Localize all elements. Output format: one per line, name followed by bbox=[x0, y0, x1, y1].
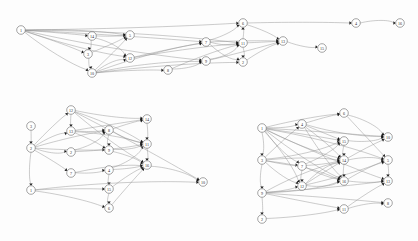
node-circle[interactable] bbox=[298, 120, 307, 129]
graph-node[interactable]: 10 bbox=[384, 133, 393, 142]
graph-node[interactable]: 1 bbox=[17, 26, 26, 35]
node-circle[interactable] bbox=[88, 32, 97, 41]
node-circle[interactable] bbox=[298, 162, 307, 171]
graph-node[interactable]: 3 bbox=[27, 122, 36, 131]
node-circle[interactable] bbox=[384, 156, 393, 165]
node-circle[interactable] bbox=[258, 189, 267, 198]
node-circle[interactable] bbox=[27, 144, 36, 153]
graph-node[interactable]: 11 bbox=[143, 140, 152, 149]
graph-node[interactable]: 16 bbox=[340, 177, 349, 186]
node-circle[interactable] bbox=[239, 58, 248, 67]
node-circle[interactable] bbox=[17, 26, 26, 35]
graph-node[interactable]: 10 bbox=[199, 178, 208, 187]
graph-node[interactable]: 2 bbox=[27, 144, 36, 153]
graph-node[interactable]: 3 bbox=[84, 50, 93, 59]
graph-node[interactable]: 10 bbox=[88, 69, 97, 78]
node-circle[interactable] bbox=[143, 140, 152, 149]
graph-node[interactable]: 6 bbox=[105, 204, 114, 213]
node-circle[interactable] bbox=[340, 177, 349, 186]
edge-arrowhead bbox=[386, 174, 389, 176]
node-circle[interactable] bbox=[27, 186, 36, 195]
node-circle[interactable] bbox=[105, 146, 114, 155]
node-circle[interactable] bbox=[126, 31, 135, 40]
node-circle[interactable] bbox=[105, 126, 114, 135]
graph-node[interactable]: 7 bbox=[202, 38, 211, 47]
graph-node[interactable]: 5 bbox=[126, 31, 135, 40]
node-circle[interactable] bbox=[318, 44, 327, 53]
graph-node[interactable]: 6 bbox=[239, 19, 248, 28]
graph-node[interactable]: 9 bbox=[105, 146, 114, 155]
node-circle[interactable] bbox=[88, 69, 97, 78]
node-circle[interactable] bbox=[105, 204, 114, 213]
node-circle[interactable] bbox=[239, 39, 248, 48]
graph-node[interactable]: 7 bbox=[67, 169, 76, 178]
node-circle[interactable] bbox=[67, 127, 76, 136]
graph-edge bbox=[34, 114, 66, 145]
node-circle[interactable] bbox=[340, 137, 349, 146]
graph-node[interactable]: 16 bbox=[396, 19, 405, 28]
node-circle[interactable] bbox=[67, 148, 76, 157]
graph-node[interactable]: 1 bbox=[27, 186, 36, 195]
graph-node[interactable]: 13 bbox=[67, 127, 76, 136]
graph-node[interactable]: 13 bbox=[279, 37, 288, 46]
graph-node[interactable]: 9 bbox=[258, 189, 267, 198]
graph-node[interactable]: 4 bbox=[298, 120, 307, 129]
graph-node[interactable]: 8 bbox=[384, 199, 393, 208]
node-circle[interactable] bbox=[258, 215, 267, 224]
node-circle[interactable] bbox=[258, 156, 267, 165]
graph-node[interactable]: 12 bbox=[298, 182, 307, 191]
node-circle[interactable] bbox=[143, 161, 152, 170]
graph-node[interactable]: 14 bbox=[88, 32, 97, 41]
node-circle[interactable] bbox=[67, 169, 76, 178]
graph-node[interactable]: 15 bbox=[105, 185, 114, 194]
graph-node[interactable]: 6 bbox=[340, 109, 349, 118]
node-circle[interactable] bbox=[352, 19, 361, 28]
graph-node[interactable]: 14 bbox=[340, 156, 349, 165]
graph-node[interactable]: 14 bbox=[143, 115, 152, 124]
node-circle[interactable] bbox=[143, 115, 152, 124]
graph-node[interactable]: 9 bbox=[202, 57, 211, 66]
graph-node[interactable]: 12 bbox=[67, 106, 76, 115]
graph-node[interactable]: 1 bbox=[258, 124, 267, 133]
graph-node[interactable]: 8 bbox=[105, 126, 114, 135]
node-circle[interactable] bbox=[105, 166, 114, 175]
graph-node[interactable]: 15 bbox=[318, 44, 327, 53]
node-circle[interactable] bbox=[279, 37, 288, 46]
node-circle[interactable] bbox=[340, 156, 349, 165]
node-circle[interactable] bbox=[202, 38, 211, 47]
node-circle[interactable] bbox=[340, 109, 349, 118]
graph-edge bbox=[35, 133, 65, 146]
node-circle[interactable] bbox=[239, 19, 248, 28]
graph-node[interactable]: 12 bbox=[126, 54, 135, 63]
node-circle[interactable] bbox=[199, 178, 208, 187]
node-circle[interactable] bbox=[258, 124, 267, 133]
node-circle[interactable] bbox=[105, 185, 114, 194]
graph-node[interactable]: 4 bbox=[352, 19, 361, 28]
graph-canvas: 1145310128976112131541632112132789415614… bbox=[0, 0, 418, 241]
graph-node[interactable]: 8 bbox=[164, 66, 173, 75]
node-circle[interactable] bbox=[384, 199, 393, 208]
node-circle[interactable] bbox=[27, 122, 36, 131]
node-circle[interactable] bbox=[384, 133, 393, 142]
graph-node[interactable]: 3 bbox=[258, 156, 267, 165]
node-circle[interactable] bbox=[202, 57, 211, 66]
graph-node[interactable]: 11 bbox=[340, 205, 349, 214]
node-circle[interactable] bbox=[340, 205, 349, 214]
node-circle[interactable] bbox=[396, 19, 405, 28]
graph-node[interactable]: 7 bbox=[298, 162, 307, 171]
graph-node[interactable]: 5 bbox=[384, 156, 393, 165]
graph-node[interactable]: 13 bbox=[384, 177, 393, 186]
graph-node[interactable]: 15 bbox=[340, 137, 349, 146]
node-circle[interactable] bbox=[84, 50, 93, 59]
graph-node[interactable]: 11 bbox=[239, 39, 248, 48]
graph-node[interactable]: 2 bbox=[239, 58, 248, 67]
graph-node[interactable]: 2 bbox=[67, 148, 76, 157]
node-circle[interactable] bbox=[164, 66, 173, 75]
node-circle[interactable] bbox=[67, 106, 76, 115]
node-circle[interactable] bbox=[384, 177, 393, 186]
graph-node[interactable]: 2 bbox=[258, 215, 267, 224]
node-circle[interactable] bbox=[298, 182, 307, 191]
graph-node[interactable]: 16 bbox=[143, 161, 152, 170]
node-circle[interactable] bbox=[126, 54, 135, 63]
graph-node[interactable]: 4 bbox=[105, 166, 114, 175]
